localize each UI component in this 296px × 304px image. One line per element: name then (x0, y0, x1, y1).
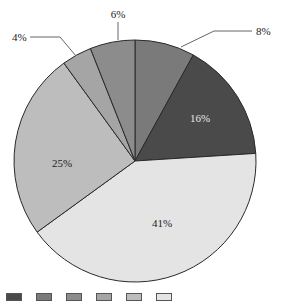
legend-swatch (6, 293, 22, 301)
label-41pct: 41% (152, 217, 172, 229)
pie-slices (14, 40, 256, 282)
legend-swatch (66, 293, 82, 301)
label-25pct: 25% (52, 157, 72, 169)
legend-swatch (36, 293, 52, 301)
legend-item (96, 290, 112, 304)
leader-line-8pct (181, 31, 252, 47)
label-6pct: 6% (111, 8, 126, 20)
label-4pct: 4% (12, 31, 27, 43)
legend-item (6, 290, 22, 304)
label-16pct: 16% (190, 112, 210, 124)
legend-item (126, 290, 142, 304)
legend-item (66, 290, 82, 304)
legend-swatch (126, 293, 142, 301)
legend-swatch (156, 293, 172, 301)
leader-line-4pct (30, 37, 76, 56)
legend-swatch (96, 293, 112, 301)
legend-item (36, 290, 52, 304)
legend-item (156, 290, 172, 304)
chart-legend (0, 290, 296, 304)
label-8pct: 8% (256, 25, 271, 37)
